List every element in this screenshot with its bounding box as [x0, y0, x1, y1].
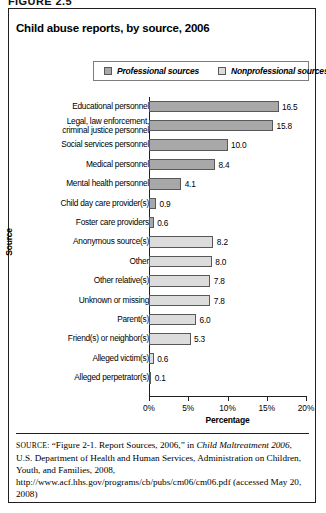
- legend-label-professional: Professional sources: [117, 66, 199, 76]
- bar-category-label: Educational personnel: [3, 102, 149, 111]
- bar-nonprofessional: [149, 314, 196, 326]
- bar-category-label: Friend(s) or neighbor(s): [3, 334, 149, 343]
- x-axis-tick: [228, 396, 229, 401]
- bar-category-label: Alleged perpetrator(s): [3, 373, 149, 382]
- bar-row: Medical personnel8.4: [9, 155, 317, 174]
- source-note-italic: Child Maltreatment 2006: [196, 440, 289, 450]
- bar-row: Alleged perpetrator(s)0.1: [9, 369, 317, 388]
- bar-row: Other relative(s)7.8: [9, 272, 317, 291]
- bar-row: Parent(s)6.0: [9, 310, 317, 329]
- bar-category-label: Anonymous source(s): [3, 237, 149, 246]
- bar-category-label: Other: [3, 257, 149, 266]
- bar-value-label: 8.4: [218, 160, 229, 170]
- bar-row: Unknown or missing7.8: [9, 291, 317, 310]
- bar-category-label: Other relative(s): [3, 276, 149, 285]
- bar-nonprofessional: [149, 236, 213, 248]
- bar-value-label: 0.6: [157, 354, 168, 364]
- bar-category-label: Alleged victim(s): [3, 354, 149, 363]
- bar-professional: [149, 120, 273, 132]
- bar-value-label: 6.0: [200, 315, 211, 325]
- bar-category-label: Social services personnel: [3, 140, 149, 149]
- bar-value-label: 10.0: [231, 140, 246, 150]
- bar-value-label: 7.8: [214, 276, 225, 286]
- bar-nonprofessional: [149, 333, 191, 345]
- bar-value-label: 5.3: [194, 334, 205, 344]
- source-divider: [16, 433, 309, 434]
- x-axis-tick-label: 20%: [298, 403, 315, 413]
- bar-category-label: Foster care providers: [3, 218, 149, 227]
- x-axis-tick: [267, 396, 268, 401]
- bar-row: Legal, law enforcement, criminal justice…: [9, 116, 317, 135]
- plot-area: Educational personnel16.5Legal, law enfo…: [9, 97, 317, 397]
- bar-row: Alleged victim(s)0.6: [9, 349, 317, 368]
- bar-nonprofessional: [149, 256, 212, 268]
- bar-value-label: 8.2: [217, 237, 228, 247]
- x-axis-title: Percentage: [149, 415, 306, 425]
- x-axis-tick: [188, 396, 189, 401]
- bar-category-label: Parent(s): [3, 315, 149, 324]
- bar-row: Friend(s) or neighbor(s)5.3: [9, 330, 317, 349]
- bar-value-label: 0.9: [160, 199, 171, 209]
- bar-professional: [149, 217, 154, 229]
- bar-value-label: 0.1: [155, 373, 166, 383]
- bar-nonprofessional: [149, 295, 210, 307]
- legend-item-nonprofessional: Nonprofessional sources: [218, 66, 326, 76]
- bar-nonprofessional: [149, 275, 210, 287]
- bar-category-label: Legal, law enforcement, criminal justice…: [3, 117, 149, 135]
- bar-nonprofessional: [149, 372, 151, 384]
- bar-row: Child day care provider(s)0.9: [9, 194, 317, 213]
- bar-professional: [149, 139, 228, 151]
- figure-caption: FIGURE 2.5: [8, 0, 72, 7]
- figure-container: Child abuse reports, by source, 2006 Pro…: [8, 8, 316, 503]
- legend-label-nonprofessional: Nonprofessional sources: [231, 66, 326, 76]
- legend-swatch-professional-icon: [104, 67, 112, 75]
- bar-professional: [149, 178, 181, 190]
- legend-swatch-nonprofessional-icon: [218, 67, 226, 75]
- bar-nonprofessional: [149, 353, 154, 365]
- bar-row: Social services personnel10.0: [9, 136, 317, 155]
- bar-professional: [149, 198, 156, 210]
- bar-row: Anonymous source(s)8.2: [9, 233, 317, 252]
- bar-category-label: Child day care provider(s): [3, 199, 149, 208]
- bar-row: Mental health personnel4.1: [9, 175, 317, 194]
- x-axis-tick: [149, 396, 150, 401]
- bar-category-label: Medical personnel: [3, 160, 149, 169]
- bar-row: Educational personnel16.5: [9, 97, 317, 116]
- x-axis-tick-label: 10%: [219, 403, 236, 413]
- bar-value-label: 8.0: [215, 257, 226, 267]
- bar-category-label: Unknown or missing: [3, 296, 149, 305]
- bar-value-label: 15.8: [277, 121, 292, 131]
- bar-row: Other8.0: [9, 252, 317, 271]
- source-note-text1: “Figure 2-1. Report Sources, 2006,” in: [49, 440, 196, 450]
- x-axis-tick-label: 5%: [182, 403, 194, 413]
- chart-legend: Professional sources Nonprofessional sou…: [93, 61, 309, 81]
- bar-row: Foster care providers0.6: [9, 213, 317, 232]
- bar-professional: [149, 101, 279, 113]
- bar-value-label: 7.8: [214, 296, 225, 306]
- chart-title: Child abuse reports, by source, 2006: [16, 22, 209, 34]
- bar-category-label: Mental health personnel: [3, 179, 149, 188]
- x-axis-tick-label: 0%: [143, 403, 155, 413]
- legend-item-professional: Professional sources: [104, 66, 199, 76]
- source-note-key: SOURCE:: [16, 441, 49, 450]
- x-axis-tick: [306, 396, 307, 401]
- bar-value-label: 0.6: [157, 218, 168, 228]
- bar-value-label: 4.1: [185, 179, 196, 189]
- source-note: SOURCE: “Figure 2-1. Report Sources, 200…: [16, 439, 307, 500]
- bar-value-label: 16.5: [282, 102, 297, 112]
- x-axis-tick-label: 15%: [258, 403, 275, 413]
- bar-professional: [149, 159, 215, 171]
